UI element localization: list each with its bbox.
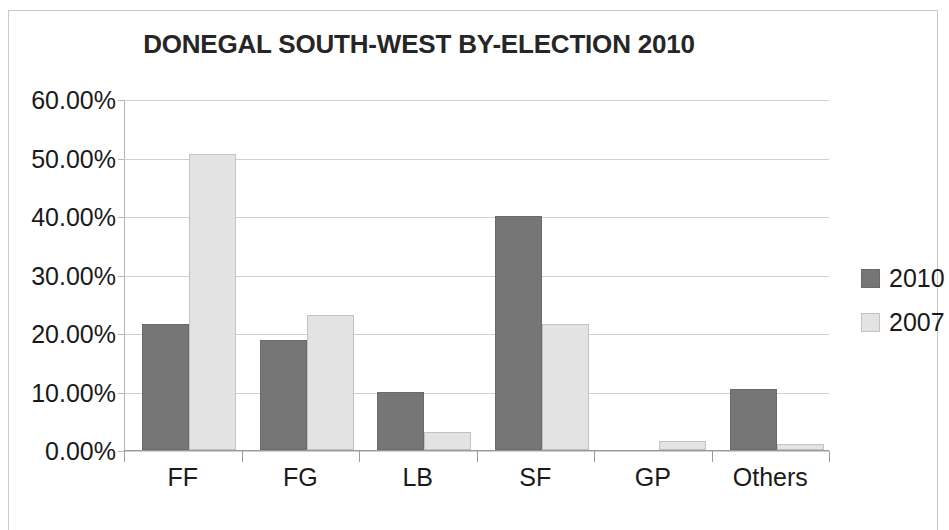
bar-group <box>730 99 824 450</box>
bar-others-2007[interactable] <box>777 444 824 450</box>
x-axis-tick <box>594 451 595 462</box>
chart-title: DONEGAL SOUTH-WEST BY-ELECTION 2010 <box>9 29 829 60</box>
y-axis-tick-label: 50.00% <box>11 144 116 173</box>
y-axis-tick <box>118 217 124 218</box>
bar-sf-2007[interactable] <box>542 324 589 450</box>
x-axis-tick <box>359 451 360 462</box>
y-axis-tick-label: 20.00% <box>11 320 116 349</box>
bar-ff-2010[interactable] <box>142 324 189 450</box>
bar-gp-2007[interactable] <box>659 441 706 450</box>
x-axis-tick <box>477 451 478 462</box>
bar-ff-2007[interactable] <box>189 154 236 450</box>
chart-frame: DONEGAL SOUTH-WEST BY-ELECTION 2010 60.0… <box>8 10 938 530</box>
legend-swatch-2007 <box>861 313 880 332</box>
x-axis-tick <box>124 451 125 462</box>
bar-lb-2010[interactable] <box>377 392 424 450</box>
plot-area <box>124 100 829 451</box>
x-axis-labels: FFFGLBSFGPOthers <box>124 463 829 507</box>
y-axis-tick-label: 30.00% <box>11 261 116 290</box>
bar-group <box>260 99 354 450</box>
bar-group <box>612 99 706 450</box>
y-axis-tick-label: 40.00% <box>11 203 116 232</box>
y-axis-labels: 60.00%50.00%40.00%30.00%20.00%10.00%0.00… <box>1 100 116 451</box>
y-axis-tick-label: 10.00% <box>11 378 116 407</box>
legend-label-2010: 2010 <box>889 264 945 293</box>
legend-swatch-2010 <box>861 269 880 288</box>
y-axis-tick-label: 60.00% <box>11 86 116 115</box>
x-axis-label-lb: LB <box>402 463 433 492</box>
x-axis-tick <box>242 451 243 462</box>
x-axis-label-sf: SF <box>519 463 551 492</box>
y-axis-tick <box>118 276 124 277</box>
legend-item-2010[interactable]: 2010 <box>861 256 947 300</box>
chart-legend: 20102007 <box>861 256 947 344</box>
bar-sf-2010[interactable] <box>495 216 542 450</box>
legend-label-2007: 2007 <box>889 308 945 337</box>
bar-fg-2007[interactable] <box>307 315 354 450</box>
bar-others-2010[interactable] <box>730 389 777 450</box>
y-axis-tick <box>118 100 124 101</box>
bar-fg-2010[interactable] <box>260 340 307 450</box>
x-axis-label-ff: FF <box>167 463 198 492</box>
x-axis-tick <box>712 451 713 462</box>
x-axis-label-others: Others <box>733 463 808 492</box>
x-axis-label-gp: GP <box>635 463 671 492</box>
legend-item-2007[interactable]: 2007 <box>861 300 947 344</box>
y-axis-tick <box>118 334 124 335</box>
y-axis-tick <box>118 159 124 160</box>
bar-group <box>495 99 589 450</box>
y-axis-tick-label: 0.00% <box>11 437 116 466</box>
bar-lb-2007[interactable] <box>424 432 471 450</box>
bar-group <box>142 99 236 450</box>
bar-group <box>377 99 471 450</box>
x-axis-tick <box>829 451 830 462</box>
x-axis-label-fg: FG <box>283 463 318 492</box>
y-axis-tick <box>118 393 124 394</box>
